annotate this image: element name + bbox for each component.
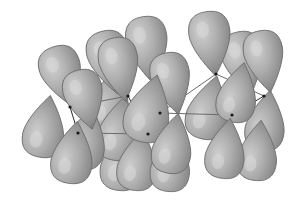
orbital-lattice-canvas	[0, 0, 294, 202]
orbital-lattice-figure	[0, 0, 294, 202]
atom-center-mid	[158, 111, 161, 114]
atom-right-up	[214, 72, 217, 75]
atom-left-upper	[68, 105, 71, 108]
atom-right-edge	[262, 94, 265, 97]
atom-center-up	[126, 94, 129, 97]
atom-left-lower	[76, 131, 79, 134]
atom-right-mid	[230, 113, 233, 116]
atom-center-low	[146, 132, 149, 135]
